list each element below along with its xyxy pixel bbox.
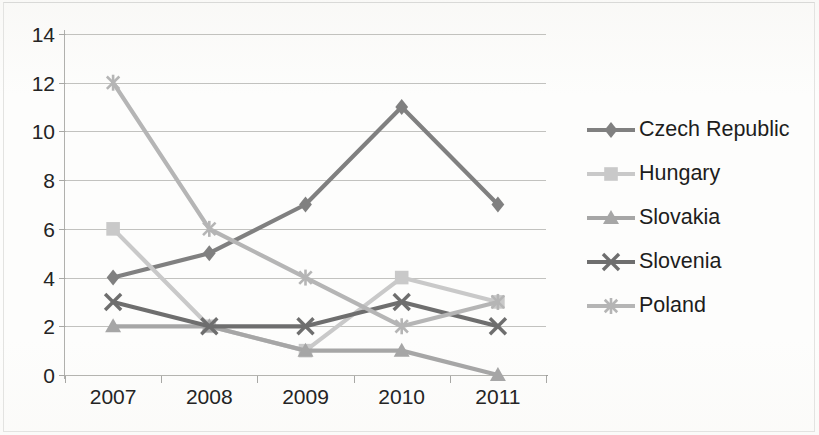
data-point-diamond [107,270,120,286]
data-point-square [604,167,618,181]
series-hungary [106,222,504,357]
data-point-square [106,222,120,236]
legend-label: Slovenia [639,251,721,273]
chart-legend: Czech RepublicHungarySlovakiaSloveniaPol… [586,108,811,328]
data-point-star [107,75,119,91]
x-tick-mark [161,376,162,383]
legend-item-hungary[interactable]: Hungary [586,152,811,196]
x-tick-label: 2010 [347,386,457,407]
y-tick-label: 14 [9,24,55,45]
y-tick-label: 0 [9,365,55,386]
legend-key-diamond-icon [586,119,636,141]
line-chart: 02468101214 20072008200920102011 Czech R… [0,0,819,435]
data-point-diamond [203,245,216,261]
x-tick-mark [257,376,258,383]
series-layer [65,34,546,375]
x-tick-label: 2011 [443,386,553,407]
legend-label: Czech Republic [639,119,790,141]
legend-key-square-icon [586,163,636,185]
data-point-diamond [605,122,618,138]
y-tick-label: 12 [9,72,55,93]
x-tick-label: 2007 [58,386,168,407]
series-line [113,302,498,326]
legend-item-slovenia[interactable]: Slovenia [586,240,811,284]
series-czech-republic [107,99,505,285]
y-tick-label: 4 [9,267,55,288]
x-tick-mark [546,376,547,383]
plot-area [65,34,546,375]
legend-item-czech-republic[interactable]: Czech Republic [586,108,811,152]
y-tick-label: 2 [9,316,55,337]
y-axis-labels: 02468101214 [0,34,55,375]
legend-key-star-icon [586,295,636,317]
x-tick-mark [450,376,451,383]
legend-label: Poland [639,295,706,317]
y-tick-label: 8 [9,170,55,191]
x-tick-mark [65,376,66,383]
gridline [65,375,546,376]
legend-label: Hungary [639,163,720,185]
data-point-square [395,271,409,285]
legend-key-x-icon [586,251,636,273]
x-tick-mark [354,376,355,383]
legend-key-triangle-icon [586,207,636,229]
y-tick-label: 6 [9,218,55,239]
legend-label: Slovakia [639,207,720,229]
series-line [113,229,498,351]
x-tick-label: 2008 [154,386,264,407]
y-tick-label: 10 [9,121,55,142]
x-tick-label: 2009 [251,386,361,407]
legend-item-slovakia[interactable]: Slovakia [586,196,811,240]
legend-item-poland[interactable]: Poland [586,284,811,328]
series-line [113,107,498,277]
